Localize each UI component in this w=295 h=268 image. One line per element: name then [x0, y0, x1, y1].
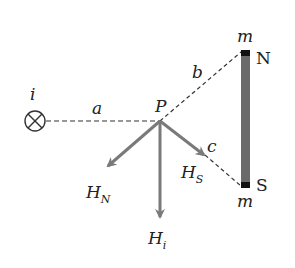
distance-b-label: b — [192, 64, 203, 81]
distance-c-label: c — [207, 138, 217, 155]
south-pole-label: S — [256, 177, 268, 194]
point-p-label: P — [155, 98, 166, 115]
north-pole-label: N — [256, 50, 271, 67]
distance-c-line — [205, 155, 241, 186]
h-n-label: HN — [86, 184, 110, 201]
distance-a-label: a — [92, 100, 102, 117]
current-label: i — [30, 86, 35, 103]
h-s-label: HS — [181, 164, 203, 181]
current-into-page-icon — [25, 111, 45, 131]
vector-h-n — [108, 121, 160, 166]
diagram-canvas: i a b c P m m N S HN Hi HS — [0, 0, 295, 268]
bar-magnet — [241, 50, 250, 188]
vector-h-s — [160, 121, 204, 155]
pole-mass-top-label: m — [237, 28, 253, 45]
pole-mass-bottom-label: m — [237, 193, 253, 210]
h-i-label: Hi — [148, 230, 166, 247]
